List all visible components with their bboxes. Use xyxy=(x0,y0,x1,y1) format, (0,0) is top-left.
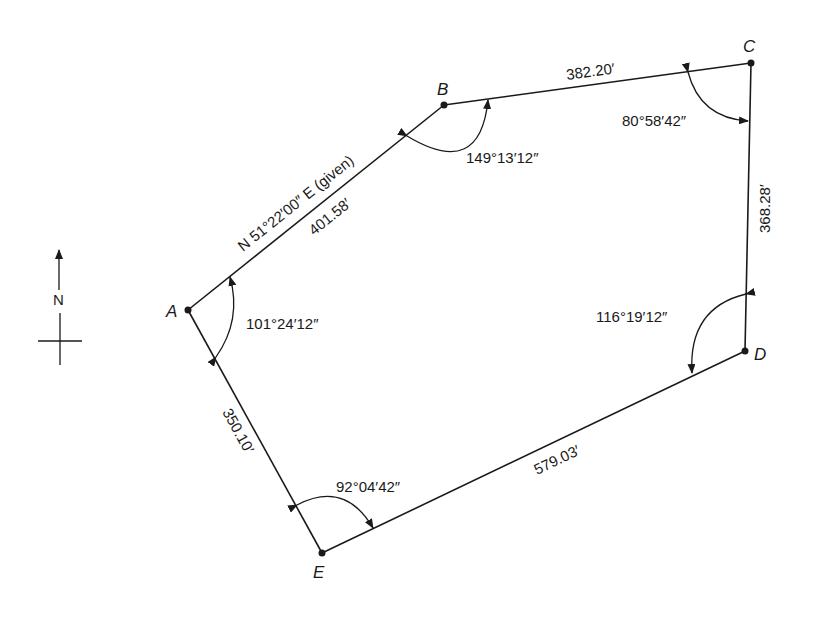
angle-a-label: 101°24′12″ xyxy=(246,315,319,332)
station-b-label: B xyxy=(437,80,448,99)
north-arrow-icon: N xyxy=(38,250,82,365)
course-de xyxy=(322,351,745,553)
traverse-diagram: N A B C D E N 51°22′00″ E (given) 401.58… xyxy=(0,0,813,622)
course-ea-length: 350.10′ xyxy=(219,405,258,456)
angle-arcs xyxy=(216,72,748,528)
angle-d-label: 116°19′12″ xyxy=(596,308,668,325)
station-c-label: C xyxy=(743,37,756,56)
angle-b-label: 149°13′12″ xyxy=(466,149,539,166)
angle-e-label: 92°04′42″ xyxy=(336,478,401,495)
angle-c-label: 80°58′42″ xyxy=(622,112,687,129)
station-d-point xyxy=(742,348,749,355)
angle-a-arc xyxy=(216,277,234,357)
station-e-point xyxy=(319,550,326,557)
station-c-point xyxy=(748,60,755,67)
course-cd-length: 368.28′ xyxy=(756,184,773,233)
course-ab-length: 401.58′ xyxy=(305,195,354,239)
station-a-point xyxy=(185,307,192,314)
station-e-label: E xyxy=(313,563,325,582)
angle-e-arc xyxy=(297,496,373,528)
station-a-label: A xyxy=(165,302,177,321)
angle-c-arc xyxy=(688,72,748,121)
course-cd xyxy=(745,63,751,351)
course-de-length: 579.03′ xyxy=(531,441,582,477)
angle-d-arc xyxy=(692,294,746,373)
course-bc-length: 382.20′ xyxy=(565,59,616,82)
course-ea xyxy=(188,310,322,553)
station-b-point xyxy=(441,102,448,109)
north-label: N xyxy=(53,291,64,308)
course-ab xyxy=(188,105,444,310)
station-d-label: D xyxy=(754,345,766,364)
